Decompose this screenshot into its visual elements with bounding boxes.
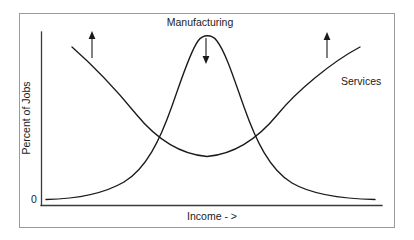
chart-plot-area <box>0 0 414 240</box>
chart-figure: Manufacturing Services Income - > Percen… <box>0 0 414 240</box>
services-right-up-arrow-icon <box>324 32 331 58</box>
curve-manufacturing <box>46 36 375 200</box>
series-label-manufacturing: Manufacturing <box>167 17 234 28</box>
services-left-up-arrow-icon <box>89 31 96 58</box>
manufacturing-down-arrow-icon <box>203 38 210 64</box>
y-axis-label: Percent of Jobs <box>21 82 32 155</box>
y-axis-tick-zero: 0 <box>31 194 37 205</box>
x-axis-label: Income - > <box>187 211 237 222</box>
curve-services <box>72 47 360 157</box>
series-label-services: Services <box>341 76 381 87</box>
